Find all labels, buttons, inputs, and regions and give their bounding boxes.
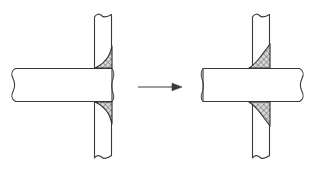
weld-cross-section-diagram xyxy=(0,0,315,173)
left-horizontal-plate xyxy=(12,69,112,102)
right-horizontal-plate xyxy=(203,69,303,102)
diagram-canvas xyxy=(0,0,315,173)
